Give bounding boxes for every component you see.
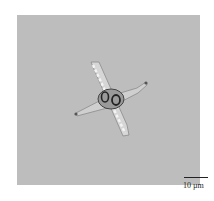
cell-specimen: [17, 15, 200, 185]
scale-bar: [184, 177, 208, 178]
micrograph-panel: 10 µm: [17, 15, 200, 185]
scale-bar-label: 10 µm: [183, 181, 204, 190]
